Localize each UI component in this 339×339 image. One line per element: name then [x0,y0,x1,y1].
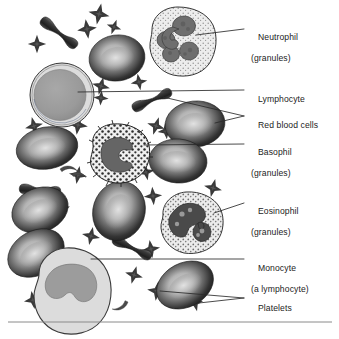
label-eosinophil: Eosinophil (granules) [248,196,299,257]
label-red-blood-cells-name: Red blood cells [258,120,318,130]
platelet [146,189,159,202]
label-neutrophil-name: Neutrophil [258,32,298,42]
basophil-cell [87,120,153,187]
platelet [108,21,121,34]
lymphocyte-cell [30,63,94,127]
lymphocyte-nucleus [34,70,86,121]
platelet [80,22,95,37]
platelet [84,229,98,243]
platelet [91,6,108,23]
label-platelets: Platelets [248,293,292,324]
neutrophil-cell [150,7,216,76]
red-blood-cell [13,122,81,174]
label-basophil: Basophil (granules) [248,137,292,198]
monocyte-cell [34,248,111,334]
eosinophil-cell [161,192,223,254]
platelet [206,181,221,196]
label-monocyte-name: Monocyte [258,263,296,273]
platelet [127,268,142,283]
crescent-fragment [111,300,130,312]
label-basophil-name: Basophil [258,147,292,157]
blood-cells-figure: Neutrophil (granules) Lymphocyte Red blo… [0,0,339,339]
red-blood-cell [148,251,222,318]
platelet [133,76,146,89]
platelet [94,79,109,94]
red-blood-cell-edge [38,15,80,51]
label-neutrophil: Neutrophil (granules) [248,22,298,83]
label-lymphocyte-name: Lymphocyte [258,94,305,104]
label-neutrophil-qualifier: (granules) [248,53,298,63]
platelet [31,38,43,50]
label-platelets-name: Platelets [258,303,292,313]
label-basophil-qualifier: (granules) [248,168,292,178]
platelet [96,93,107,104]
label-eosinophil-qualifier: (granules) [248,227,299,237]
label-eosinophil-name: Eosinophil [258,206,299,216]
leader-line-platelets-b [199,298,244,303]
